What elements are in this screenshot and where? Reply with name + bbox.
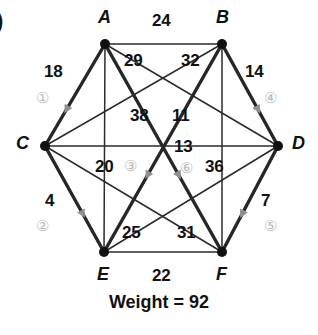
edge-weight-label: 13 bbox=[174, 138, 193, 155]
circuit-step-marker-3: ③ bbox=[124, 158, 137, 173]
circuit-step-marker-4: ④ bbox=[264, 90, 277, 105]
diagram-canvas: ) 2429321814381113203647253122 ①②③④⑤⑥ AB… bbox=[0, 0, 318, 335]
edge-weight-label: 7 bbox=[261, 192, 270, 209]
edge-weight-label: 22 bbox=[152, 267, 171, 284]
vertex-label-a: A bbox=[98, 8, 111, 26]
circuit-step-marker-5: ⑤ bbox=[264, 218, 277, 233]
circuit-arrows-layer bbox=[64, 104, 260, 218]
edge-weight-label: 11 bbox=[172, 107, 190, 124]
graph-edge-ac bbox=[45, 44, 105, 146]
vertex-label-b: B bbox=[216, 8, 229, 26]
vertex-label-f: F bbox=[216, 265, 227, 283]
circuit-step-marker-1: ① bbox=[36, 90, 49, 105]
edge-weight-label: 36 bbox=[205, 158, 224, 175]
vertex-label-e: E bbox=[97, 265, 109, 283]
edge-weight-label: 4 bbox=[45, 192, 54, 209]
edge-weight-label: 38 bbox=[130, 107, 149, 124]
edge-weight-label: 29 bbox=[124, 52, 143, 69]
vertex-label-d: D bbox=[292, 134, 305, 152]
graph-vertex-f bbox=[217, 247, 227, 257]
edge-weight-label: 25 bbox=[122, 224, 141, 241]
edge-weight-label: 31 bbox=[177, 224, 196, 241]
circuit-step-marker-6: ⑥ bbox=[180, 160, 193, 175]
graph-vertex-d bbox=[273, 141, 283, 151]
edge-weight-label: 32 bbox=[181, 52, 200, 69]
graph-vertex-c bbox=[40, 141, 50, 151]
edge-weight-label: 24 bbox=[152, 12, 171, 29]
graph-edge-ae bbox=[104, 44, 105, 252]
edges-layer bbox=[45, 44, 278, 252]
graph-vertex-b bbox=[217, 39, 227, 49]
total-weight-caption: Weight = 92 bbox=[0, 292, 318, 313]
edge-weight-label: 20 bbox=[95, 158, 114, 175]
graph-vertex-a bbox=[100, 39, 110, 49]
edge-weight-label: 14 bbox=[245, 63, 264, 80]
graph-vertex-e bbox=[99, 247, 109, 257]
edge-weight-label: 18 bbox=[44, 63, 63, 80]
circuit-step-marker-2: ② bbox=[36, 218, 49, 233]
vertex-label-c: C bbox=[16, 134, 29, 152]
